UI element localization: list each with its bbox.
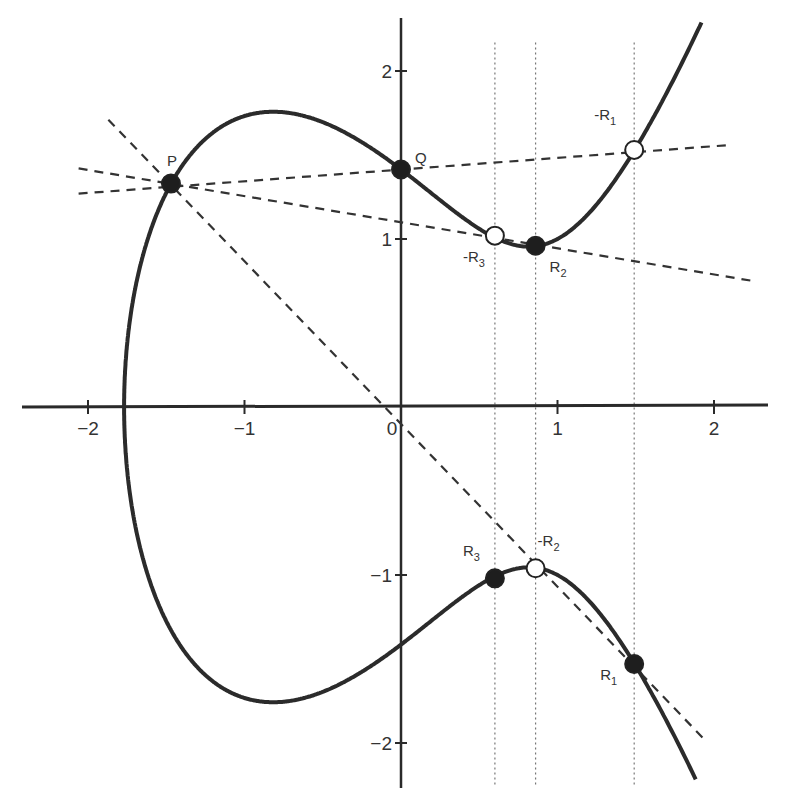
point-neg-r3-marker <box>486 227 504 245</box>
x-tick-label: 0 <box>387 418 398 439</box>
point-r1-marker <box>625 655 643 673</box>
y-tick-label: 2 <box>381 61 392 82</box>
line-P-origin <box>108 120 706 742</box>
point-r2-marker <box>527 237 545 255</box>
point-r3-marker <box>486 569 504 587</box>
point-label: R1 <box>600 666 617 687</box>
elliptic-curve-diagram: −2−101221−1−2 PQR2-R3-R1R3-R2R1 <box>0 0 791 809</box>
elliptic-curve <box>124 23 701 780</box>
y-tick-label: 1 <box>381 229 392 250</box>
point-label: P <box>167 152 177 169</box>
x-tick-label: −2 <box>77 418 99 439</box>
curve-path <box>124 23 701 780</box>
point-neg-r1-marker <box>625 141 643 159</box>
point-label: -R3 <box>463 248 485 269</box>
x-axis <box>22 405 768 407</box>
point-label: R2 <box>550 258 567 279</box>
axes <box>22 18 768 788</box>
x-tick-label: −1 <box>234 418 256 439</box>
point-label: -R1 <box>594 106 616 127</box>
y-tick-label: −2 <box>370 733 392 754</box>
point-label: Q <box>415 149 427 166</box>
point-p-marker <box>162 175 180 193</box>
x-tick-label: 1 <box>552 418 563 439</box>
point-q-marker <box>392 160 410 178</box>
curve-points: PQR2-R3-R1R3-R2R1 <box>162 106 643 687</box>
point-label: -R2 <box>538 532 560 553</box>
point-label: R3 <box>463 542 480 563</box>
y-tick-label: −1 <box>370 565 392 586</box>
x-tick-label: 2 <box>709 418 720 439</box>
point-neg-r2-marker <box>527 559 545 577</box>
